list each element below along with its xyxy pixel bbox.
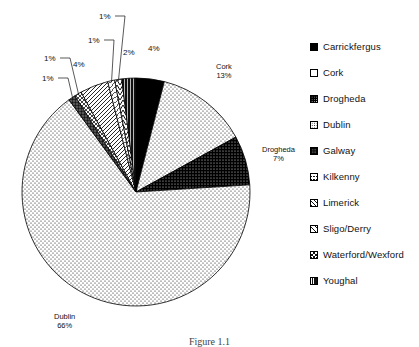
pie-label-sligo-derry: 1% [88,36,100,45]
legend-swatch-drogheda [310,95,318,103]
legend-swatch-dublin [310,121,318,129]
pie-label-name: 2% [123,48,135,57]
legend-item-galway[interactable]: Galway [310,138,419,164]
legend-swatch-sligo-derry [310,225,318,233]
legend-swatch-kilkenny [310,173,318,181]
legend-swatch-galway [310,147,318,155]
legend-swatch-waterford-wexford [310,251,318,259]
pie-label-name: Cork [216,62,232,71]
pie-label-cork: Cork13% [216,62,232,80]
pie-label-name: 4% [148,44,160,53]
pie-label-value: 13% [216,71,232,80]
legend-item-label: Youghal [323,276,358,286]
pie-label-name: 1% [44,54,56,63]
pie-label-kilkenny: 1% [44,54,56,63]
pie-label-youghal: 2% [123,48,135,57]
pie-label-carrickfergus: 4% [148,44,160,53]
legend-item-label: Drogheda [323,94,366,104]
pie-label-value: 66% [54,321,75,330]
legend-item-label: Limerick [323,198,359,208]
pie-label-drogheda: Drogheda7% [262,145,295,163]
pie-label-name: 1% [99,12,111,21]
leader-line-sligo-derry [104,40,114,82]
legend-item-sligo-derry[interactable]: Sligo/Derry [310,216,419,242]
legend-item-dublin[interactable]: Dublin [310,112,419,138]
legend-item-label: Kilkenny [323,172,360,182]
legend-swatch-limerick [310,199,318,207]
pie-label-limerick: 4% [73,60,85,69]
legend-item-label: Dublin [323,120,351,130]
pie-label-value: 7% [262,154,295,163]
legend-swatch-youghal [310,277,318,285]
legend-item-drogheda[interactable]: Drogheda [310,86,419,112]
legend-swatch-carrickfergus [310,43,318,51]
pie-label-name: 1% [88,36,100,45]
pie-label-galway: 1% [42,74,54,83]
legend-item-label: Carrickfergus [323,42,381,52]
legend-item-carrickfergus[interactable]: Carrickfergus [310,34,419,60]
legend-swatch-cork [310,69,318,77]
pie-label-dublin: Dublin66% [54,312,75,330]
pie-slices-group [22,78,250,306]
pie-label-name: Dublin [54,312,75,321]
figure-caption: Figure 1.1 [0,336,419,347]
leader-line-galway [58,78,73,99]
legend-item-kilkenny[interactable]: Kilkenny [310,164,419,190]
legend-item-label: Sligo/Derry [323,224,371,234]
pie-label-name: 1% [42,74,54,83]
pie-label-name: 4% [73,60,85,69]
legend-item-label: Galway [323,146,355,156]
chart-legend: Carrickfergus Cork Drogheda Dublin Galwa… [310,34,419,294]
legend-item-label: Waterford/Wexford [323,250,404,260]
legend-item-label: Cork [323,68,343,78]
pie-label-name: Drogheda [262,145,295,154]
legend-item-youghal[interactable]: Youghal [310,268,419,294]
legend-item-cork[interactable]: Cork [310,60,419,86]
legend-item-limerick[interactable]: Limerick [310,190,419,216]
legend-item-waterford-wexford[interactable]: Waterford/Wexford [310,242,419,268]
pie-label-waterford-wexford: 1% [99,12,111,21]
